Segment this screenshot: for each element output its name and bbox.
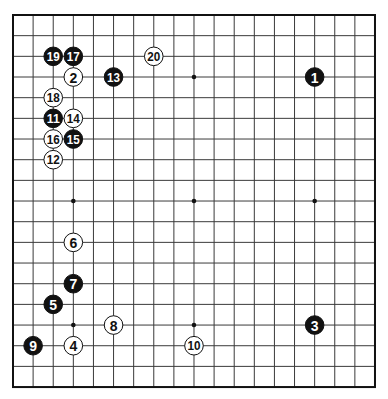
move-number-label: 16 [47, 133, 60, 147]
move-number-label: 17 [67, 50, 80, 64]
move-number-label: 15 [67, 133, 80, 147]
white-stone: 12 [44, 150, 63, 169]
star-point-icon [312, 199, 317, 204]
star-point-icon [192, 323, 197, 328]
move-number-label: 5 [49, 297, 57, 313]
star-point-icon [71, 323, 76, 328]
move-number-label: 1 [311, 70, 319, 86]
black-stone: 17 [64, 47, 83, 66]
star-point-icon [192, 75, 197, 80]
move-number-label: 7 [69, 276, 77, 292]
white-stone: 10 [185, 336, 204, 355]
white-stone: 14 [64, 109, 83, 128]
move-number-label: 13 [107, 71, 120, 85]
move-number-label: 12 [47, 153, 60, 167]
star-point-icon [192, 199, 197, 204]
move-number-label: 19 [47, 50, 60, 64]
black-stone: 9 [24, 336, 43, 355]
move-number-label: 4 [69, 338, 77, 354]
white-stone: 8 [104, 316, 123, 335]
black-stone: 19 [44, 47, 63, 66]
black-stone: 5 [44, 295, 63, 314]
move-number-label: 20 [147, 50, 160, 64]
white-stone: 6 [64, 233, 83, 252]
move-number-label: 14 [67, 112, 80, 126]
move-number-label: 2 [69, 70, 77, 86]
star-point-icon [71, 199, 76, 204]
move-number-label: 18 [47, 91, 60, 105]
white-stone: 2 [64, 68, 83, 87]
black-stone: 13 [104, 68, 123, 87]
white-stone: 4 [64, 336, 83, 355]
white-stone: 20 [144, 47, 163, 66]
black-stone: 7 [64, 274, 83, 293]
go-board: 1234567891011121314151617181920 [0, 0, 388, 399]
white-stone: 18 [44, 88, 63, 107]
black-stone: 15 [64, 130, 83, 149]
black-stone: 11 [44, 109, 63, 128]
move-number-label: 6 [69, 235, 77, 251]
move-number-label: 3 [311, 318, 319, 334]
move-number-label: 9 [29, 338, 37, 354]
white-stone: 16 [44, 130, 63, 149]
black-stone: 3 [305, 316, 324, 335]
move-number-label: 10 [187, 339, 200, 353]
move-number-label: 8 [110, 318, 118, 334]
move-number-label: 11 [47, 112, 60, 126]
black-stone: 1 [305, 68, 324, 87]
